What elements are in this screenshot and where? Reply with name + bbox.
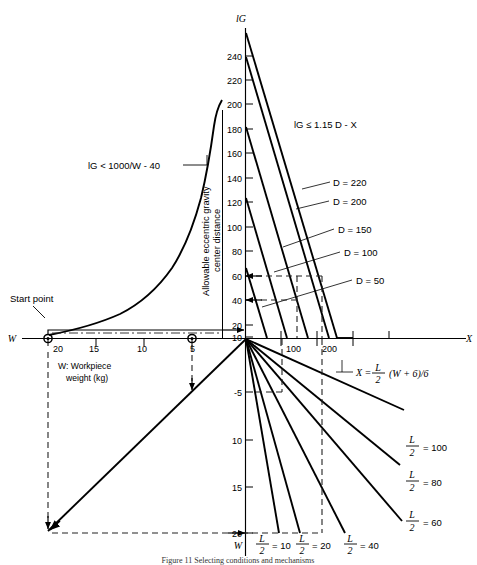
l-label-10-den: 2 [260, 545, 265, 556]
l-label-20-num: L [298, 533, 305, 544]
y-tick-neg15: 15 [232, 483, 242, 493]
nomograph-svg: lG X W W 10 20 40 60 80 100 120 140 160 … [0, 0, 477, 565]
d-label-200: D = 200 [333, 196, 367, 207]
nomograph-figure: lG X W W 10 20 40 60 80 100 120 140 160 … [0, 0, 477, 565]
l-label-100-eq: = 100 [423, 442, 447, 453]
y-tick-180: 180 [227, 125, 242, 135]
y-tick-140: 140 [227, 174, 242, 184]
y-tick-neg10: 10 [232, 436, 242, 446]
formula-x-numerator: L [374, 362, 381, 373]
l-label-80-den: 2 [410, 482, 415, 493]
l-label-80-eq: = 80 [423, 477, 442, 488]
l-label-100-num: L [408, 434, 415, 445]
figure-caption: Figure 11 Selecting conditions and mecha… [162, 556, 315, 565]
y-tick-20: 20 [232, 321, 242, 331]
formula-right-label: lG ≤ 1.15 D - X [294, 119, 357, 130]
y-axis-name: lG [236, 13, 246, 24]
d-label-100: D = 100 [344, 247, 378, 258]
d-label-50: D = 50 [356, 275, 384, 286]
y-tick-40: 40 [232, 296, 242, 306]
y-tick-100: 100 [227, 223, 242, 233]
l-label-80-num: L [408, 469, 415, 480]
l-label-100-den: 2 [410, 447, 415, 458]
w-tick-20: 20 [53, 344, 63, 354]
y-tick-160: 160 [227, 149, 242, 159]
l-label-10-eq: = 10 [272, 540, 291, 551]
y-tick-80: 80 [232, 247, 242, 257]
y-tick-220: 220 [227, 76, 242, 86]
w-axis-note-line2: weight (kg) [65, 373, 108, 383]
l-label-10-num: L [258, 533, 265, 544]
l-label-40-den: 2 [348, 545, 353, 556]
y-tick-neg5: -5 [234, 388, 242, 398]
y-tick-120: 120 [227, 198, 242, 208]
l-label-60-eq: = 60 [423, 517, 442, 528]
l-label-60-num: L [408, 509, 415, 520]
y-tick-200: 200 [227, 100, 242, 110]
y-tick-10: 10 [232, 333, 242, 343]
x-tick-200: 200 [322, 344, 337, 354]
x-tick-100: 100 [286, 344, 301, 354]
start-point-label: Start point [10, 293, 54, 304]
y-tick-240: 240 [227, 52, 242, 62]
formula-left-label: lG < 1000/W - 40 [88, 160, 160, 171]
l-label-40-num: L [346, 533, 353, 544]
y-tick-60: 60 [232, 272, 242, 282]
l-label-60-den: 2 [410, 522, 415, 533]
formula-x-prefix: X = [355, 367, 371, 378]
y-axis-title-line2: center distance [212, 209, 222, 272]
w-axis-note-line1: W: Workpiece [58, 361, 111, 371]
d-label-220: D = 220 [333, 177, 367, 188]
l-label-40-eq: = 40 [360, 540, 379, 551]
formula-x-denominator: 2 [376, 374, 381, 385]
l-label-20-eq: = 20 [312, 540, 331, 551]
x-axis-name: X [465, 333, 473, 344]
y-axis-title-line1: Allowable eccentric gravity [201, 186, 211, 296]
formula-x-suffix: (W + 6)/6 [389, 368, 429, 380]
w-tick-10: 10 [137, 344, 147, 354]
w-tick-15: 15 [89, 344, 99, 354]
l-label-20-den: 2 [300, 545, 305, 556]
d-label-150: D = 150 [338, 224, 372, 235]
